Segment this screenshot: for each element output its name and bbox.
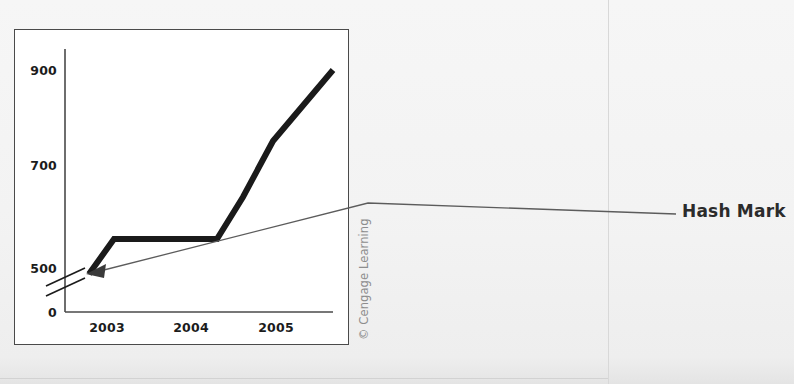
y-tick-500: 500	[21, 261, 57, 276]
page-column-rule	[608, 0, 609, 384]
x-tick-2005: 2005	[252, 320, 300, 335]
line-chart	[15, 30, 350, 346]
hash-mark-callout-label: Hash Mark	[682, 201, 786, 221]
figure-box: 900 700 500 0 2003 2004 2005	[14, 29, 349, 345]
data-line	[89, 70, 333, 274]
page-bottom-rule	[0, 378, 608, 379]
x-tick-2004: 2004	[167, 320, 215, 335]
copyright-credit: © Cengage Learning	[357, 324, 497, 340]
y-tick-900: 900	[21, 63, 57, 78]
y-tick-700: 700	[21, 158, 57, 173]
x-tick-2003: 2003	[83, 320, 131, 335]
y-tick-0: 0	[21, 305, 57, 320]
